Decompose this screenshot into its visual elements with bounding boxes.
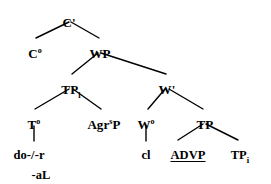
node-c-bar-label: C' — [62, 15, 75, 30]
node-tp-subject: TPi — [61, 83, 80, 96]
node-c-head-superscript: o — [38, 46, 42, 55]
terminal-al-label: -aL — [31, 168, 50, 182]
node-tp-trace-base: TP — [231, 148, 247, 162]
node-w-bar-label: W' — [159, 82, 176, 97]
node-w-bar: W' — [159, 83, 176, 96]
node-w-head-base: W — [137, 117, 150, 132]
terminal-al: -aL — [31, 169, 50, 182]
node-t-head: To — [28, 118, 41, 131]
node-t-head-superscript: o — [36, 117, 40, 126]
branch-wp-to-w_bar — [101, 53, 166, 74]
terminal-cl-label: cl — [141, 148, 150, 162]
node-advp: ADVP — [170, 149, 205, 162]
node-c-bar: C' — [62, 16, 75, 29]
node-tp-trace-subscript: i — [247, 155, 249, 165]
node-advp-label: ADVP — [170, 148, 205, 162]
terminal-cl: cl — [141, 149, 150, 162]
node-w-head-superscript: o — [151, 117, 155, 126]
node-w-head: Wo — [137, 118, 154, 131]
terminal-do-r-label: do-/-r — [13, 148, 44, 162]
node-agrsp: AgrsP — [87, 118, 120, 131]
node-c-head: Co — [28, 47, 42, 60]
node-t-head-base: T — [28, 117, 37, 132]
node-tp-trace: TPi — [231, 149, 250, 162]
node-wp: WP — [89, 47, 110, 60]
node-agrsp-base: Agr — [87, 117, 109, 132]
node-tp-subject-subscript: i — [78, 90, 80, 100]
terminal-do-r: do-/-r — [13, 149, 44, 162]
node-tp-object-label: TP — [197, 117, 214, 132]
node-tp-subject-base: TP — [61, 82, 78, 97]
node-wp-label: WP — [89, 46, 110, 61]
node-agrsp-tail: P — [113, 117, 121, 132]
syntax-tree-figure: C' Co WP TPi W' To AgrsP Wo TP do-/-r -a… — [0, 0, 271, 184]
node-c-head-base: C — [28, 46, 38, 61]
node-tp-object: TP — [197, 118, 214, 131]
